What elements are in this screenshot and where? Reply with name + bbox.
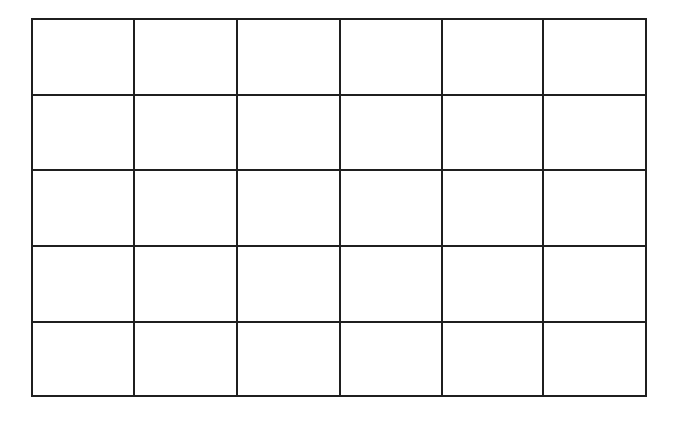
grid-cell-r5-c3: [238, 323, 341, 395]
grid-cell-r5-c1: [33, 323, 135, 395]
grid-cell-r2-c4: [341, 96, 443, 171]
grid-cell-r3-c2: [135, 171, 238, 247]
grid-cell-r1-c2: [135, 20, 238, 96]
grid-cell-r4-c5: [443, 247, 544, 323]
grid-cell-r4-c1: [33, 247, 135, 323]
grid-cell-r5-c6: [544, 323, 645, 395]
canvas: [0, 0, 677, 425]
grid-cell-r1-c4: [341, 20, 443, 96]
grid-cell-r2-c3: [238, 96, 341, 171]
grid-cell-r4-c4: [341, 247, 443, 323]
grid-cell-r4-c3: [238, 247, 341, 323]
grid-cell-r2-c5: [443, 96, 544, 171]
grid-cell-r1-c5: [443, 20, 544, 96]
grid-cell-r3-c6: [544, 171, 645, 247]
grid-cell-r1-c1: [33, 20, 135, 96]
grid-cell-r2-c1: [33, 96, 135, 171]
grid-cell-r3-c3: [238, 171, 341, 247]
grid-cell-r1-c3: [238, 20, 341, 96]
grid-cell-r4-c6: [544, 247, 645, 323]
grid-cell-r2-c2: [135, 96, 238, 171]
grid-cell-r2-c6: [544, 96, 645, 171]
grid-cell-r5-c4: [341, 323, 443, 395]
grid-cell-r5-c2: [135, 323, 238, 395]
grid-cell-r3-c1: [33, 171, 135, 247]
grid-cell-r3-c4: [341, 171, 443, 247]
empty-grid-table: [31, 18, 647, 397]
grid-cell-r3-c5: [443, 171, 544, 247]
grid-cell-r4-c2: [135, 247, 238, 323]
grid-cell-r5-c5: [443, 323, 544, 395]
grid-cell-r1-c6: [544, 20, 645, 96]
